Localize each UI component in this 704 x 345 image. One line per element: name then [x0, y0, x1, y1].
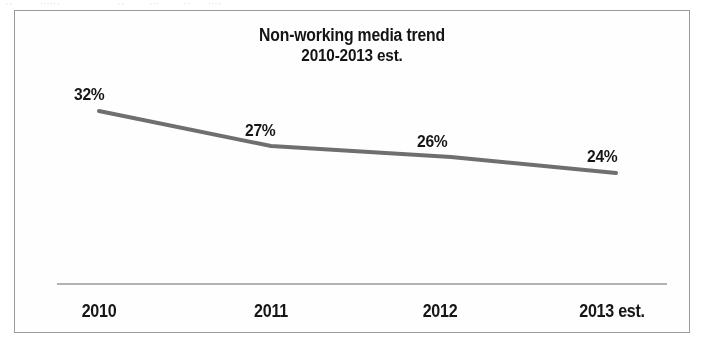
- scan-artifact-fragment: ······: [40, 0, 60, 9]
- category-label-2012: 2012: [385, 301, 495, 322]
- category-label-2011: 2011: [216, 301, 326, 322]
- scan-artifact-fragment: ··: [6, 0, 13, 9]
- value-label-2012: 26%: [417, 132, 447, 152]
- value-label-2010: 32%: [74, 85, 104, 105]
- category-label-2013-est-: 2013 est.: [557, 301, 667, 322]
- scan-artifact-fragment: ··: [118, 0, 125, 9]
- chart-figure-frame: Non-working media trend 2010-2013 est. 3…: [14, 10, 690, 333]
- category-label-2010: 2010: [44, 301, 154, 322]
- scan-artifact-fragment: ····: [208, 0, 222, 9]
- scan-artifact-fragment: ··: [184, 0, 191, 9]
- value-label-2011: 27%: [245, 121, 275, 141]
- scan-artifact-fragment: ···: [150, 0, 160, 9]
- chart-plot-svg: [15, 11, 691, 334]
- trend-line: [99, 111, 616, 173]
- value-label-2013-est-: 24%: [587, 147, 617, 167]
- scan-artifact-strip: ···················: [0, 0, 704, 9]
- plot-area: Non-working media trend 2010-2013 est. 3…: [15, 11, 689, 332]
